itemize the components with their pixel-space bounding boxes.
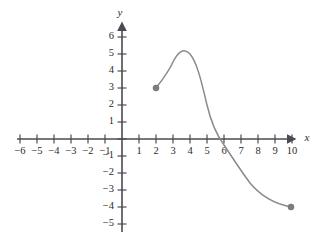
- y-axis-label: y: [117, 6, 123, 18]
- y-tick-label: −1: [103, 149, 114, 160]
- x-tick-label: 7: [238, 145, 243, 156]
- y-tick-label: 1: [109, 115, 114, 126]
- y-tick-label: 6: [109, 30, 114, 41]
- y-tick-labels: 6 5 4 3 2 1 −1 −2 −3 −4 −5: [103, 30, 115, 228]
- y-tick-label: −3: [103, 183, 114, 194]
- y-tick-label: −2: [103, 166, 114, 177]
- function-curve: [156, 51, 291, 207]
- x-axis-label: x: [304, 131, 310, 143]
- x-tick-label: 4: [187, 145, 193, 156]
- x-tick-label: −2: [82, 145, 93, 156]
- x-tick-label: 3: [170, 145, 175, 156]
- y-tick-label: 4: [109, 64, 115, 75]
- y-axis: [117, 22, 127, 233]
- right-endpoint-dot: [288, 204, 294, 210]
- coordinate-plane: −6 −5 −4 −3 −2 −1 1 2 3 4 5 6 7 8 9 10 6…: [0, 0, 322, 240]
- x-tick-label: 2: [153, 145, 158, 156]
- x-tick-label: 10: [287, 145, 298, 156]
- y-tick-label: −5: [103, 217, 114, 228]
- x-tick-label: −5: [31, 145, 42, 156]
- left-endpoint-dot: [153, 85, 159, 91]
- y-tick-label: 3: [109, 81, 114, 92]
- x-tick-label: −3: [65, 145, 76, 156]
- y-tick-label: 5: [109, 47, 114, 58]
- y-tick-label: −4: [103, 200, 115, 211]
- y-axis-arrow-icon: [117, 22, 127, 32]
- graph-figure: −6 −5 −4 −3 −2 −1 1 2 3 4 5 6 7 8 9 10 6…: [0, 0, 322, 240]
- x-tick-label: 9: [272, 145, 277, 156]
- y-tick-label: 2: [109, 98, 114, 109]
- x-tick-label: −4: [48, 145, 60, 156]
- x-tick-label: 8: [255, 145, 260, 156]
- x-axis: [17, 134, 297, 144]
- x-tick-label: 5: [204, 145, 209, 156]
- x-tick-label: 1: [136, 145, 141, 156]
- x-tick-label: −6: [14, 145, 25, 156]
- x-tick-labels: −6 −5 −4 −3 −2 −1 1 2 3 4 5 6 7 8 9 10: [14, 145, 297, 156]
